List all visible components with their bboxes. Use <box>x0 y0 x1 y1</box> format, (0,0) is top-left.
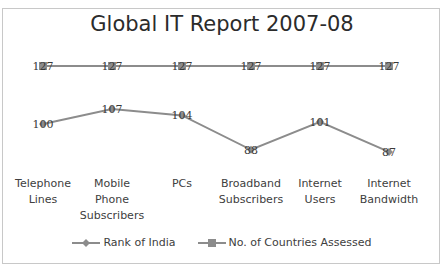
data-label: 127 <box>310 60 331 73</box>
data-label: 127 <box>241 60 262 73</box>
legend: Rank of India No. of Countries Assessed <box>0 236 444 249</box>
x-label-internet-bandwidth: Internet Bandwidth <box>354 176 424 208</box>
x-label-mobile-phone-subscribers: Mobile Phone Subscribers <box>77 176 147 224</box>
data-label: 127 <box>172 60 193 73</box>
x-label-broadband-subscribers: Broadband Subscribers <box>216 176 286 208</box>
data-label: 127 <box>33 60 54 73</box>
x-axis-labels: Telephone Lines Mobile Phone Subscribers… <box>0 176 444 226</box>
data-label: 87 <box>382 146 396 159</box>
data-label: 107 <box>102 103 123 116</box>
data-label: 88 <box>244 144 258 157</box>
legend-item-rank-of-india[interactable]: Rank of India <box>72 236 175 249</box>
series-rank-of-india: 1001071048810187 <box>33 103 397 159</box>
legend-label: No. of Countries Assessed <box>229 236 372 249</box>
legend-item-countries-assessed[interactable]: No. of Countries Assessed <box>198 236 372 249</box>
data-label: 101 <box>310 116 331 129</box>
series-countries-assessed: 127127127127127127 <box>33 60 400 73</box>
x-label-pcs: PCs <box>147 176 217 192</box>
x-label-telephone-lines: Telephone Lines <box>8 176 78 208</box>
legend-label: Rank of India <box>103 236 175 249</box>
data-label: 104 <box>172 109 193 122</box>
data-label: 127 <box>379 60 400 73</box>
square-marker-icon <box>198 238 226 248</box>
diamond-marker-icon <box>72 238 100 248</box>
data-label: 100 <box>33 118 54 131</box>
plot-area: 127127127127127127 1001071048810187 <box>0 0 444 270</box>
data-label: 127 <box>102 60 123 73</box>
x-label-internet-users: Internet Users <box>285 176 355 208</box>
